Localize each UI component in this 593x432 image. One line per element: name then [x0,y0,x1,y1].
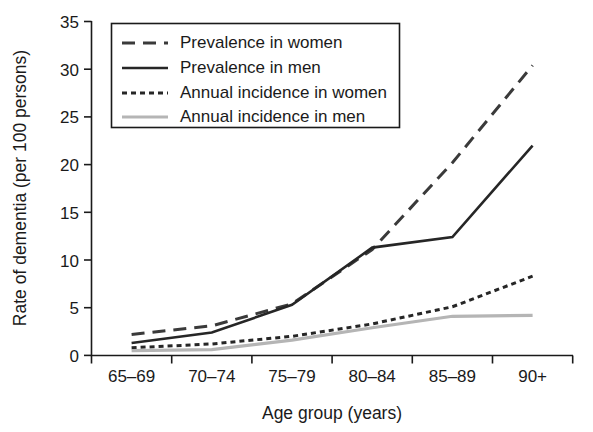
y-tick-label: 15 [60,204,79,223]
x-tick-label: 90+ [518,367,547,386]
chart-figure: 35 30 25 20 15 10 5 0 65–69 70–74 75–79 … [0,0,593,432]
x-tick-label: 65–69 [108,367,155,386]
dementia-rate-line-chart: 35 30 25 20 15 10 5 0 65–69 70–74 75–79 … [0,0,593,432]
legend-label-prevalence-men: Prevalence in men [180,58,321,77]
y-tick-label: 35 [60,13,79,32]
y-tick-label: 25 [60,108,79,127]
y-tick-label: 0 [70,347,79,366]
legend-label-incidence-women: Annual incidence in women [180,83,387,102]
x-tick-label: 80–84 [349,367,396,386]
legend-label-prevalence-women: Prevalence in women [180,33,343,52]
y-tick-label: 10 [60,252,79,271]
y-tick-label: 5 [70,299,79,318]
x-axis-title: Age group (years) [262,403,402,423]
legend: Prevalence in women Prevalence in men An… [112,24,400,128]
x-tick-label: 70–74 [188,367,235,386]
y-tick-label: 20 [60,156,79,175]
x-tick-label: 75–79 [268,367,315,386]
y-axis-title: Rate of dementia (per 100 persons) [10,50,30,326]
x-tick-label: 85–89 [429,367,476,386]
legend-label-incidence-men: Annual incidence in men [180,107,365,126]
y-tick-label: 30 [60,61,79,80]
